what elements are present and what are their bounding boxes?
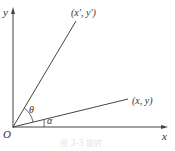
rotation-diagram: y x O (x′, y′) (x, y) θ α 图 3-3 旋转 [0,0,175,151]
x-axis-arrow-icon [161,125,168,129]
y-axis-arrow-icon [11,7,15,14]
rotated-point-label: (x′, y′) [71,7,97,19]
original-point-label: (x, y) [132,95,153,107]
x-axis-label: x [161,130,167,142]
theta-label: θ [29,104,34,115]
origin-label: O [3,128,11,140]
y-axis-label: y [2,6,8,18]
rotated-vector [13,21,76,127]
alpha-label: α [47,115,53,126]
figure-caption: 图 3-3 旋转 [60,138,102,148]
